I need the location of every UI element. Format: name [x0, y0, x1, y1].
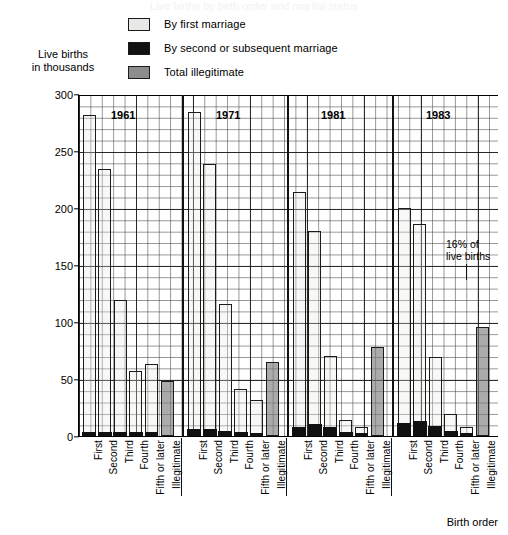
group-divider	[287, 95, 289, 436]
bar-body	[325, 357, 336, 435]
bar-1981-first	[293, 192, 306, 436]
bar-1981-third	[324, 356, 337, 436]
bar-1983-third	[429, 357, 442, 436]
x-axis-label-1981-third: Third	[334, 440, 345, 463]
x-axis-label-1971-illegitimate: Illegitimate	[276, 440, 287, 489]
x-axis-group-divider	[181, 438, 182, 496]
bar-body	[204, 165, 215, 435]
bar-segment-second-marriage	[428, 426, 442, 436]
bar-body	[162, 382, 173, 435]
bar-segment-second-marriage	[308, 424, 322, 437]
bar-segment-second-marriage	[413, 421, 427, 436]
chart-legend: By first marriage By second or subsequen…	[128, 12, 428, 84]
x-axis-label-1971-third: Third	[229, 440, 240, 463]
x-axis-label-1983-third: Third	[439, 440, 450, 463]
x-axis-label-1983-fifth-or-later: Fifth or later	[470, 440, 481, 495]
bar-1983-first	[398, 208, 411, 436]
bar-segment-second-marriage	[98, 432, 112, 437]
y-axis-caption: Live births in thousands	[22, 48, 104, 74]
bar-1971-fourth	[234, 389, 247, 436]
legend-item-first-marriage: By first marriage	[128, 12, 428, 36]
bar-segment-second-marriage	[113, 432, 127, 437]
bar-segment-second-marriage	[129, 432, 143, 437]
group-divider	[392, 95, 394, 436]
x-axis-labels: FirstSecondThirdFourthFifth or laterIlle…	[78, 440, 498, 510]
x-axis-label-1981-fifth-or-later: Fifth or later	[365, 440, 376, 495]
y-axis-tick-200: 200	[55, 203, 79, 215]
bar-segment-second-marriage	[250, 433, 264, 436]
x-axis-label-1961-illegitimate: Illegitimate	[171, 440, 182, 489]
year-label-1983: 1983	[426, 109, 450, 121]
bar-1961-second	[98, 169, 111, 436]
x-axis-group-divider	[391, 438, 392, 496]
legend-label-first-marriage: By first marriage	[164, 18, 246, 30]
bar-1971-illegitimate	[266, 362, 279, 436]
bar-body	[146, 365, 157, 435]
legend-item-second-marriage: By second or subsequent marriage	[128, 36, 428, 60]
x-axis-label-1981-fourth: Fourth	[349, 440, 360, 470]
bar-segment-second-marriage	[82, 432, 96, 437]
legend-label-illegitimate: Total illegitimate	[164, 66, 244, 78]
page-title: Live births by birth order and marital s…	[150, 0, 358, 12]
y-axis-caption-line1: Live births	[22, 48, 104, 61]
bar-body	[294, 193, 305, 435]
bar-1983-second	[413, 224, 426, 436]
legend-swatch-first-marriage	[128, 18, 150, 31]
x-axis-label-1971-fifth-or-later: Fifth or later	[260, 440, 271, 495]
legend-swatch-illegitimate	[128, 66, 150, 79]
y-axis-caption-line2: in thousands	[22, 61, 104, 74]
y-axis-tick-300: 300	[55, 89, 79, 101]
x-axis-label-1983-fourth: Fourth	[454, 440, 465, 470]
x-axis-label-1961-second: Second	[108, 440, 119, 475]
bar-segment-second-marriage	[355, 433, 369, 436]
chart-axes-frame: 300250200150100500 1961197119811983 16% …	[78, 95, 498, 437]
x-axis-label-1961-fifth-or-later: Fifth or later	[155, 440, 166, 495]
bar-1961-illegitimate	[161, 381, 174, 436]
bar-1983-fifth-or-later	[460, 427, 473, 436]
bar-segment-second-marriage	[460, 433, 474, 436]
y-axis-tick-250: 250	[55, 146, 79, 158]
bar-segment-second-marriage	[218, 431, 232, 437]
bar-1971-third	[219, 304, 232, 436]
bar-1983-fourth	[444, 414, 457, 436]
x-axis-label-1961-third: Third	[124, 440, 135, 463]
bar-body	[99, 170, 110, 435]
bar-1981-illegitimate	[371, 347, 384, 436]
year-label-1971: 1971	[216, 109, 240, 121]
x-axis-label-1971-second: Second	[213, 440, 224, 475]
bar-segment-second-marriage	[323, 427, 337, 436]
x-axis-caption: Birth order	[447, 516, 498, 528]
bar-1983-illegitimate	[476, 327, 489, 436]
annotation-16-percent: 16% oflive births	[446, 238, 490, 262]
annotation-line1: 16% of	[446, 238, 490, 250]
x-axis-label-1981-illegitimate: Illegitimate	[381, 440, 392, 489]
bar-1981-fifth-or-later	[355, 427, 368, 436]
bar-segment-second-marriage	[203, 429, 217, 436]
bar-body	[414, 225, 425, 435]
y-axis-tick-150: 150	[55, 260, 79, 272]
bar-segment-second-marriage	[339, 432, 353, 437]
legend-item-illegitimate: Total illegitimate	[128, 60, 428, 84]
year-label-1961: 1961	[111, 109, 135, 121]
bar-1961-first	[83, 115, 96, 436]
group-divider	[182, 95, 184, 436]
x-axis-label-1971-fourth: Fourth	[244, 440, 255, 470]
bar-segment-second-marriage	[145, 432, 159, 437]
bar-body	[430, 358, 441, 435]
bar-1971-second	[203, 164, 216, 436]
bar-body	[189, 113, 200, 435]
y-axis-tick-100: 100	[55, 317, 79, 329]
top-axis-line	[79, 95, 498, 96]
x-axis-label-1983-first: First	[408, 440, 419, 460]
bar-segment-second-marriage	[187, 429, 201, 436]
bar-body	[84, 116, 95, 435]
x-axis-label-1961-fourth: Fourth	[139, 440, 150, 470]
annotation-leader-line	[466, 264, 467, 280]
bar-body	[309, 232, 320, 435]
y-axis-tick-50: 50	[61, 374, 79, 386]
bar-segment-second-marriage	[234, 432, 248, 437]
x-axis-label-1981-first: First	[303, 440, 314, 460]
bar-segment-second-marriage	[397, 423, 411, 437]
bar-1981-fourth	[339, 420, 352, 436]
x-axis-group-divider	[286, 438, 287, 496]
